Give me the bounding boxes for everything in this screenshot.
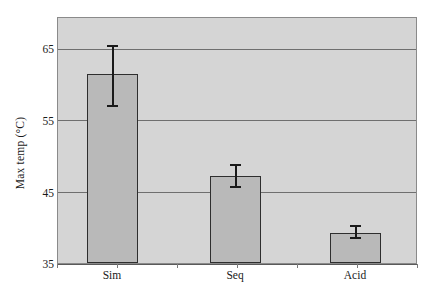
x-label-sim: Sim <box>82 270 142 282</box>
y-tick-label-55: 55 <box>28 116 54 128</box>
x-tick-mark <box>177 264 178 268</box>
x-tick-mark <box>117 264 118 268</box>
error-bar-cap-upper <box>350 225 361 227</box>
error-bar-seq <box>223 164 248 188</box>
error-bar-acid <box>343 225 368 239</box>
x-tick-mark <box>237 264 238 268</box>
y-tick-label-45: 45 <box>28 188 54 200</box>
x-label-seq: Seq <box>205 270 265 282</box>
y-axis-tick-labels: 65 55 45 35 <box>26 0 54 296</box>
plot-area <box>57 17 417 264</box>
x-tick-mark <box>57 264 58 268</box>
y-axis-title-label: Max temp (°C) <box>14 98 26 208</box>
bar-chart-figure: Max temp (°C) 65 55 45 35 <box>0 0 437 296</box>
error-bar-cap-upper <box>107 45 118 47</box>
x-label-acid: Acid <box>325 270 385 282</box>
error-bar-line <box>112 45 114 107</box>
error-bar-cap-lower <box>350 237 361 239</box>
error-bar-sim <box>100 45 125 107</box>
error-bar-cap-upper <box>230 164 241 166</box>
y-tick-label-35: 35 <box>28 259 54 271</box>
error-bar-cap-lower <box>107 105 118 107</box>
bar-seq <box>210 176 261 263</box>
y-tick-label-65: 65 <box>28 44 54 56</box>
x-tick-mark <box>297 264 298 268</box>
x-tick-mark <box>417 264 418 268</box>
error-bar-cap-lower <box>230 186 241 188</box>
x-tick-mark <box>357 264 358 268</box>
error-bar-line <box>235 164 237 188</box>
